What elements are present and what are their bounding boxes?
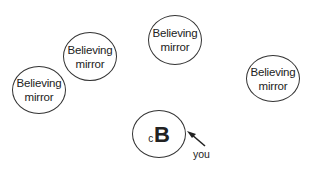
arrow-icon [0, 0, 312, 171]
diagram-canvas: Believing mirror Believing mirror Believ… [0, 0, 312, 171]
you-label: you [193, 148, 210, 160]
